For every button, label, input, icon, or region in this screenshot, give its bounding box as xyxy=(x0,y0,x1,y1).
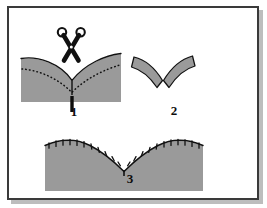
figure-2-group xyxy=(132,56,196,88)
figure-label-2: 2 xyxy=(166,104,182,117)
right-curved-band xyxy=(164,56,196,88)
left-curved-band xyxy=(132,57,163,88)
figure-label-3: 3 xyxy=(122,172,138,185)
figure-root: 1 2 3 xyxy=(0,0,267,208)
scissors-icon xyxy=(58,28,85,61)
figure-label-1: 1 xyxy=(66,105,82,118)
figure-1-group xyxy=(21,28,121,112)
